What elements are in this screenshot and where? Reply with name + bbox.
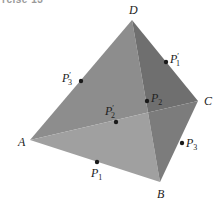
point-p2-dot — [145, 99, 149, 103]
point-label-p3: P3 — [185, 136, 197, 152]
tetrahedron-faces — [30, 20, 198, 182]
point-label-p1-prime: P′1 — [169, 52, 180, 68]
point-p2-prime-dot — [114, 120, 118, 124]
point-p3-dot — [180, 141, 184, 145]
vertex-label-b: B — [157, 187, 165, 201]
tetrahedron-diagram: ABCDP1P′1P2P′2P3P′3 — [0, 0, 223, 205]
point-p1-prime-dot — [164, 60, 168, 64]
vertex-label-c: C — [204, 94, 213, 108]
point-p1-dot — [95, 160, 99, 164]
vertex-label-a: A — [17, 135, 26, 149]
vertex-label-d: D — [128, 3, 138, 17]
point-label-p2-prime: P′2 — [104, 104, 115, 120]
point-label-p3-prime: P′3 — [61, 71, 72, 87]
point-p3-prime-dot — [79, 79, 83, 83]
point-label-p1: P1 — [90, 166, 102, 182]
